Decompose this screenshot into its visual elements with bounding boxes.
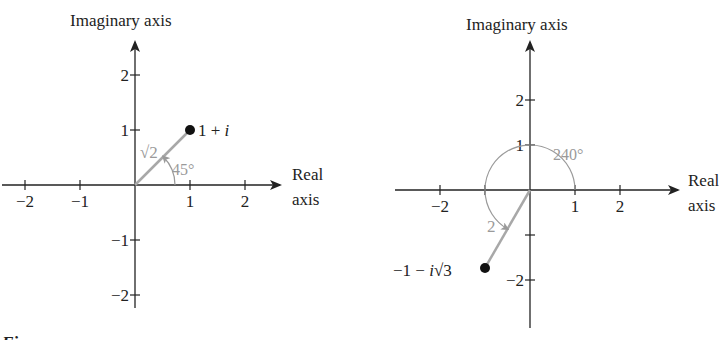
left-complex-point (185, 125, 195, 135)
left-y-tick-label: −1 (111, 231, 129, 250)
right-x-axis-label-real: Real (688, 171, 719, 190)
left-y-tick-label: 1 (121, 121, 130, 140)
left-modulus-label: √2 (140, 143, 158, 162)
right-y-axis-label: Imaginary axis (466, 15, 568, 34)
right-complex-point (480, 263, 490, 273)
left-x-tick-label: −1 (71, 192, 89, 211)
left-y-tick-label: 2 (121, 66, 130, 85)
left-x-axis-label-real: Real (292, 165, 323, 184)
right-angle-label: 240° (553, 146, 583, 163)
left-x-tick-label: 1 (186, 192, 195, 211)
left-x-axis-label-axis: axis (292, 190, 319, 209)
left-x-tick-label: −2 (16, 192, 34, 211)
complex-plane-figure: −2−112 21−1−2 Imaginary axis Real axis 1… (0, 0, 719, 340)
left-point-label: 1 + i (198, 121, 230, 140)
left-complex-plane: −2−112 21−1−2 Imaginary axis Real axis 1… (2, 11, 323, 308)
left-y-axis-label: Imaginary axis (70, 11, 172, 30)
right-x-tick-label: 2 (616, 197, 625, 216)
right-complex-plane: −212 21−2 Imaginary axis Real axis −1 − … (393, 15, 719, 328)
right-point-label: −1 − i√3 (393, 261, 452, 280)
left-x-tick-label: 2 (241, 192, 250, 211)
right-modulus-label: 2 (487, 217, 496, 236)
right-y-tick-label: −2 (506, 271, 524, 290)
right-y-tick-label: 2 (516, 91, 525, 110)
right-x-tick-label: 1 (571, 197, 580, 216)
right-x-tick-label: −2 (431, 197, 449, 216)
left-y-tick-label: −2 (111, 286, 129, 305)
figure-caption: Figure (1, 333, 51, 340)
right-x-axis-label-axis: axis (688, 196, 715, 215)
left-angle-label: 45° (172, 161, 194, 178)
